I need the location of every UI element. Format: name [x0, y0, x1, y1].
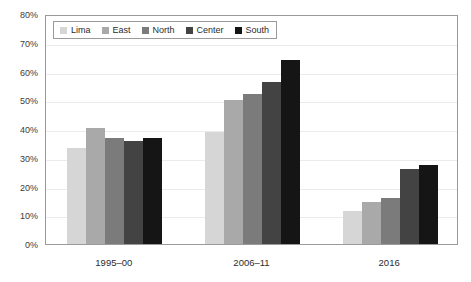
- bar-north-2[interactable]: [381, 198, 400, 244]
- legend-item-east[interactable]: East: [102, 25, 131, 35]
- legend-label: Center: [197, 25, 224, 35]
- legend-item-center[interactable]: Center: [186, 25, 224, 35]
- bar-lima-0[interactable]: [67, 148, 86, 244]
- y-tick-label: 80%: [20, 11, 38, 20]
- legend-label: North: [153, 25, 175, 35]
- bar-lima-2[interactable]: [343, 211, 362, 244]
- bar-group: [343, 16, 438, 244]
- bar-south-2[interactable]: [419, 165, 438, 244]
- y-tick-label: 30%: [20, 154, 38, 163]
- bar-east-0[interactable]: [86, 128, 105, 244]
- y-tick-label: 40%: [20, 126, 38, 135]
- bar-group: [205, 16, 300, 244]
- legend-swatch-icon: [60, 27, 67, 34]
- x-tick-label: 2016: [379, 257, 400, 268]
- bar-group: [67, 16, 162, 244]
- x-axis: 1995–002006–112016: [45, 247, 458, 277]
- bar-center-2[interactable]: [400, 169, 419, 244]
- bar-chart: 0%10%20%30%40%50%60%70%80% LimaEastNorth…: [0, 0, 471, 282]
- bar-lima-1[interactable]: [205, 132, 224, 244]
- bar-south-1[interactable]: [281, 60, 300, 244]
- plot-area: LimaEastNorthCenterSouth: [45, 15, 458, 245]
- chart-legend: LimaEastNorthCenterSouth: [53, 21, 277, 39]
- y-tick-label: 60%: [20, 68, 38, 77]
- bars-layer: [46, 16, 457, 244]
- y-tick-label: 0%: [25, 241, 38, 250]
- bar-east-1[interactable]: [224, 100, 243, 244]
- legend-label: South: [246, 25, 270, 35]
- legend-item-north[interactable]: North: [142, 25, 175, 35]
- legend-label: Lima: [71, 25, 91, 35]
- x-tick-label: 2006–11: [233, 257, 269, 268]
- legend-swatch-icon: [102, 27, 109, 34]
- legend-item-lima[interactable]: Lima: [60, 25, 91, 35]
- bar-east-2[interactable]: [362, 202, 381, 244]
- legend-swatch-icon: [142, 27, 149, 34]
- bar-north-0[interactable]: [105, 138, 124, 244]
- legend-swatch-icon: [235, 27, 242, 34]
- x-tick-label: 1995–00: [95, 257, 132, 268]
- y-tick-label: 70%: [20, 39, 38, 48]
- bar-center-1[interactable]: [262, 82, 281, 244]
- bar-center-0[interactable]: [124, 141, 143, 245]
- y-tick-label: 10%: [20, 212, 38, 221]
- legend-swatch-icon: [186, 27, 193, 34]
- y-tick-label: 20%: [20, 183, 38, 192]
- y-tick-label: 50%: [20, 97, 38, 106]
- bar-south-0[interactable]: [143, 138, 162, 244]
- bar-north-1[interactable]: [243, 94, 262, 244]
- legend-item-south[interactable]: South: [235, 25, 270, 35]
- y-axis: 0%10%20%30%40%50%60%70%80%: [0, 0, 42, 282]
- legend-label: East: [113, 25, 131, 35]
